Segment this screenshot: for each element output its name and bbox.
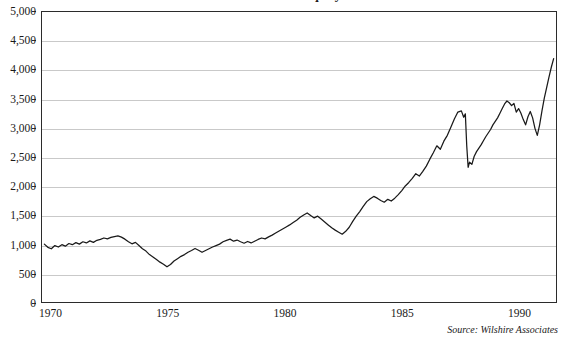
y-axis-tick	[32, 215, 36, 216]
line-series	[42, 12, 556, 303]
y-axis-tick-label: 1,500	[10, 209, 36, 221]
x-axis-tick-label: 1980	[273, 307, 296, 319]
y-axis-tick-label: 500	[19, 268, 36, 280]
y-axis-tick	[32, 245, 36, 246]
y-axis-tick	[32, 99, 36, 100]
y-axis-tick	[32, 69, 36, 70]
y-axis-tick-label: 2,000	[10, 180, 36, 192]
y-axis-labels: 05001,0001,5002,0002,5003,0003,5004,0004…	[0, 0, 36, 341]
y-axis-tick-label: 2,500	[10, 151, 36, 163]
y-axis-tick	[32, 157, 36, 158]
y-axis-tick	[32, 274, 36, 275]
y-axis-tick-label: 3,000	[10, 122, 36, 134]
y-axis-tick-label: 4,500	[10, 34, 36, 46]
x-axis-tick-label: 1985	[391, 307, 414, 319]
x-axis-tick-label: 1990	[508, 307, 531, 319]
y-axis-tick-label: 1,000	[10, 239, 36, 251]
x-axis-tick-label: 1975	[156, 307, 179, 319]
plot-area	[41, 11, 557, 303]
y-axis-tick	[32, 186, 36, 187]
series-polyline	[44, 59, 553, 267]
y-axis-tick-label: 3,500	[10, 93, 36, 105]
y-axis-tick	[32, 128, 36, 129]
x-axis-tick-label: 1970	[39, 307, 62, 319]
chart-figure: Wilshire 5000 Equity Index 05001,0001,50…	[0, 0, 566, 341]
y-axis-tick-label: 0	[30, 297, 36, 309]
y-axis-tick-label: 5,000	[10, 5, 36, 17]
chart-title: Wilshire 5000 Equity Index	[41, 0, 557, 3]
y-axis-tick	[32, 11, 36, 12]
y-axis-tick	[32, 303, 36, 304]
source-note: Source: Wilshire Associates	[447, 324, 558, 335]
y-axis-tick-label: 4,000	[10, 63, 36, 75]
y-axis-tick	[32, 40, 36, 41]
